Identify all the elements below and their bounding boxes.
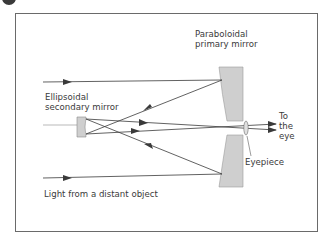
primary-mirror-bottom (219, 135, 243, 187)
arrow-icon (268, 127, 277, 133)
secondary-mirror-label-line2: secondary mirror (45, 102, 119, 112)
primary-mirror-label: Paraboloidal primary mirror (195, 29, 258, 49)
arrow-icon (131, 128, 140, 134)
to-the-eye-line2: the (279, 121, 295, 131)
primary-mirror-label-line2: primary mirror (195, 39, 258, 49)
arrow-icon (268, 121, 277, 127)
to-the-eye-label: To the eye (279, 111, 295, 141)
primary-mirror-top (219, 67, 243, 121)
eyepiece-leader-line (247, 136, 251, 156)
secondary-mirror-label: Ellipsoidal secondary mirror (45, 92, 119, 112)
arrow-icon (139, 119, 148, 126)
arrow-icon (144, 143, 153, 149)
to-the-eye-line1: To (279, 111, 295, 121)
to-the-eye-line3: eye (279, 131, 295, 141)
arrow-icon (63, 175, 72, 181)
eyepiece-lens (244, 121, 248, 135)
eyepiece-label: Eyepiece (245, 157, 284, 167)
secondary-mirror-label-line1: Ellipsoidal (45, 92, 119, 102)
reflected-ray-bottom (86, 119, 222, 174)
light-source-label: Light from a distant object (44, 189, 158, 199)
arrow-icon (63, 79, 72, 85)
secondary-mirror (77, 117, 86, 137)
primary-mirror-label-line1: Paraboloidal (195, 29, 258, 39)
